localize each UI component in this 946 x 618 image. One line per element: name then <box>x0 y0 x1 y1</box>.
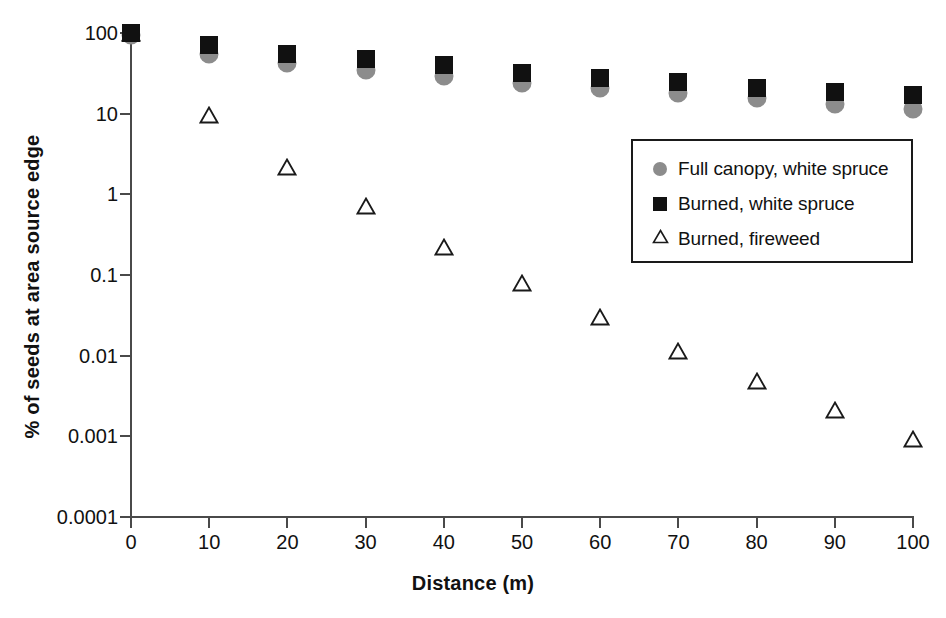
y-tick-mark <box>120 113 130 115</box>
legend-item-label: Full canopy, white spruce <box>678 158 888 180</box>
x-tick-mark <box>912 518 914 528</box>
data-point <box>122 24 140 42</box>
data-point <box>357 50 375 68</box>
y-tick-label: 0.1 <box>0 264 118 287</box>
x-tick-mark <box>756 518 758 528</box>
data-point <box>826 83 844 101</box>
x-tick-mark <box>521 518 523 528</box>
x-tick-mark <box>365 518 367 528</box>
data-point <box>825 401 845 419</box>
data-point <box>278 45 296 63</box>
legend-circle-icon <box>648 162 672 176</box>
x-tick-label: 10 <box>179 531 239 554</box>
legend-item: Burned, fireweed <box>633 221 911 256</box>
x-tick-label: 50 <box>492 531 552 554</box>
y-tick-label: 10 <box>0 102 118 125</box>
y-tick-mark <box>120 516 130 518</box>
data-point <box>747 372 767 390</box>
y-tick-label: 100 <box>0 22 118 45</box>
x-tick-label: 70 <box>648 531 708 554</box>
legend-item: Full canopy, white spruce <box>633 151 911 186</box>
data-point <box>591 69 609 87</box>
y-tick-label: 0.0001 <box>0 506 118 529</box>
legend-triangle-icon <box>648 229 672 248</box>
square-icon <box>653 197 667 211</box>
data-point <box>277 158 297 176</box>
data-point <box>668 342 688 360</box>
x-tick-mark <box>286 518 288 528</box>
x-tick-label: 40 <box>414 531 474 554</box>
x-tick-label: 0 <box>101 531 161 554</box>
legend-item: Burned, white spruce <box>633 186 911 221</box>
data-point <box>748 79 766 97</box>
x-tick-label: 30 <box>336 531 396 554</box>
chart-legend: Full canopy, white spruceBurned, white s… <box>631 139 913 263</box>
data-point <box>435 56 453 74</box>
x-axis-title: Distance (m) <box>0 572 946 595</box>
data-point <box>200 36 218 54</box>
x-tick-label: 20 <box>257 531 317 554</box>
data-point <box>669 73 687 91</box>
x-tick-mark <box>130 518 132 528</box>
x-tick-label: 80 <box>727 531 787 554</box>
data-point <box>904 86 922 104</box>
x-tick-label: 60 <box>570 531 630 554</box>
x-tick-label: 100 <box>883 531 943 554</box>
circle-icon <box>653 162 667 176</box>
y-tick-mark <box>120 274 130 276</box>
y-tick-label: 1 <box>0 183 118 206</box>
x-tick-label: 90 <box>805 531 865 554</box>
x-tick-mark <box>677 518 679 528</box>
legend-item-label: Burned, white spruce <box>678 193 855 215</box>
data-point <box>903 430 923 448</box>
data-point <box>356 197 376 215</box>
data-point <box>512 274 532 292</box>
y-tick-mark <box>120 435 130 437</box>
legend-square-icon <box>648 197 672 211</box>
legend-item-label: Burned, fireweed <box>678 228 820 250</box>
data-point <box>434 238 454 256</box>
y-tick-label: 0.001 <box>0 425 118 448</box>
x-tick-mark <box>834 518 836 528</box>
data-point <box>513 64 531 82</box>
y-tick-mark <box>120 193 130 195</box>
data-point <box>199 106 219 124</box>
seed-dispersal-chart: % of seeds at area source edge 1001010.1… <box>0 0 946 618</box>
x-tick-mark <box>599 518 601 528</box>
data-point <box>590 308 610 326</box>
y-tick-mark <box>120 355 130 357</box>
x-tick-mark <box>208 518 210 528</box>
x-tick-mark <box>443 518 445 528</box>
y-tick-label: 0.01 <box>0 344 118 367</box>
triangle-icon <box>652 229 669 248</box>
y-axis-line <box>130 33 132 518</box>
